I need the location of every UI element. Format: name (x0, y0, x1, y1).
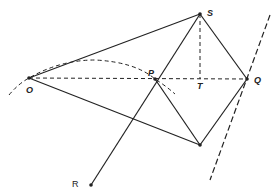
line-RS (91, 14, 200, 185)
point-B (198, 143, 202, 147)
label-S: S (207, 8, 213, 18)
point-S (198, 12, 202, 16)
point-Q (245, 77, 249, 81)
point-O (27, 76, 31, 80)
line-OQ-dashed (29, 78, 247, 79)
line-OB (29, 78, 200, 145)
label-R: R (72, 179, 79, 189)
label-Q: Q (254, 75, 261, 85)
line-PB (155, 79, 200, 145)
label-O: O (26, 85, 33, 95)
label-P: P (148, 68, 155, 78)
label-T: T (197, 81, 204, 91)
point-R (89, 183, 93, 187)
line-OS (29, 14, 200, 78)
line-SQ (200, 14, 247, 79)
diagram-canvas: O P S T Q R (0, 0, 277, 190)
line-QB (200, 79, 247, 145)
